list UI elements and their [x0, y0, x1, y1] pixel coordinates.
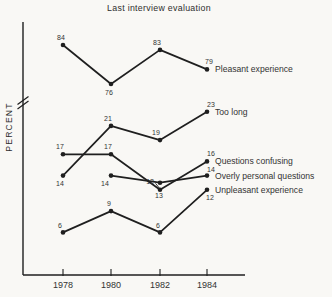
series-label: Unpleasant experience: [215, 185, 303, 195]
point-value-label: 14: [207, 166, 215, 173]
point-value-label: 16: [207, 150, 215, 157]
point-value-label: 23: [207, 101, 215, 108]
series-label: Overly personal questions: [215, 171, 314, 181]
series-line: [63, 45, 207, 84]
data-point: [158, 138, 163, 143]
data-point: [158, 230, 163, 235]
point-value-label: 6: [58, 222, 62, 229]
point-value-label: 21: [104, 115, 112, 122]
point-value-label: 14: [101, 180, 109, 187]
chart-title: Last interview evaluation: [24, 3, 294, 13]
data-point: [205, 159, 210, 164]
point-value-label: 13: [155, 192, 163, 199]
series-label: Too long: [215, 107, 248, 117]
series-line: [63, 154, 207, 190]
data-point: [158, 48, 163, 53]
point-value-label: 14: [56, 180, 64, 187]
point-value-label: 84: [57, 34, 65, 41]
x-tick-label: 1984: [197, 280, 217, 290]
series-label: Questions confusing: [215, 156, 293, 166]
data-point: [109, 173, 114, 178]
point-value-label: 12: [206, 194, 214, 201]
data-point: [109, 82, 114, 87]
series-label: Pleasant experience: [215, 64, 293, 74]
data-point: [205, 173, 210, 178]
data-point: [205, 109, 210, 114]
x-tick-label: 1978: [53, 280, 73, 290]
series-line: [63, 112, 207, 176]
data-point: [61, 230, 66, 235]
figure: Last interview evaluation PERCENT 197819…: [0, 0, 332, 297]
y-axis-label: PERCENT: [4, 96, 16, 158]
point-value-label: 6: [156, 222, 160, 229]
point-value-label: 9: [107, 200, 111, 207]
data-point: [109, 209, 114, 214]
x-tick-label: 1982: [150, 280, 170, 290]
x-tick-label: 1980: [101, 280, 121, 290]
series-line: [63, 190, 207, 233]
data-point: [61, 43, 66, 48]
point-value-label: 17: [56, 143, 64, 150]
data-point: [205, 188, 210, 193]
data-point: [109, 124, 114, 129]
data-point: [61, 173, 66, 178]
data-point: [205, 67, 210, 72]
data-point: [109, 152, 114, 157]
data-point: [61, 152, 66, 157]
chart-canvas: 197819801982198484768379Pleasant experie…: [0, 0, 332, 297]
point-value-label: 79: [205, 58, 213, 65]
point-value-label: 76: [105, 89, 113, 96]
point-value-label: 19: [152, 129, 160, 136]
data-point: [158, 180, 163, 185]
point-value-label: 17: [104, 143, 112, 150]
point-value-label: 83: [153, 39, 161, 46]
